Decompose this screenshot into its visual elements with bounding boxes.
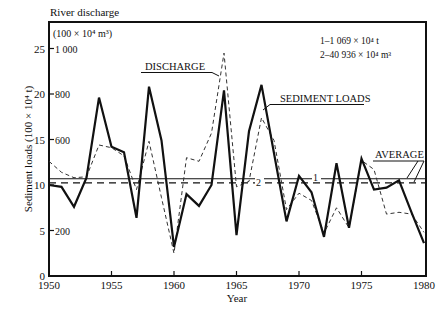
x-tick-label: 1950 [38,279,61,291]
y-tick-label: 5 [40,225,46,237]
x-tick-label: 1960 [163,279,186,291]
discharge-label: DISCHARGE [145,61,205,72]
legend-note-1: 1–1 069 × 10⁴ t [320,36,379,46]
chart: River discharge (100 × 10⁴ m³) Sediment … [0,0,448,310]
x-axis-ticks: 1950195519601965197019751980 [38,271,436,291]
x-tick-label: 1955 [101,279,124,291]
y-tick-label: 20 [34,88,46,100]
plot-frame [49,22,426,276]
sediment-label: SEDIMENT LOADS [280,93,371,104]
sediment-series-line [49,85,424,247]
right-axis-tick-label: 1 000 [55,44,78,55]
avg1-marker: 1 [313,172,318,183]
y-tick-label: 25 [34,43,46,55]
average-leader-1 [407,161,418,178]
y-axis-title: Sediment loads (100 × 10⁴ t) [22,85,35,212]
y-tick-label: 10 [34,179,46,191]
average-label: AVERAGE [375,149,424,160]
legend-note-2: 2–40 936 × 10⁴ m³ [320,50,391,60]
right-axis-units: (100 × 10⁴ m³) [53,28,112,40]
x-tick-label: 1975 [351,279,374,291]
right-axis-tick-label: 800 [55,89,70,100]
y-axis-ticks: 05101520252006008001 000 [34,43,78,283]
right-axis-title: River discharge [50,6,119,18]
y-tick-label: 15 [34,134,46,146]
right-axis-tick-label: 600 [55,135,70,146]
avg2-marker: 2 [256,177,261,188]
x-axis-title: Year [227,292,248,304]
discharge-label-leader [212,73,219,77]
x-tick-label: 1970 [288,279,311,291]
x-tick-label: 1980 [413,279,436,291]
right-axis-tick-label: 200 [55,226,70,237]
x-tick-label: 1965 [226,279,249,291]
